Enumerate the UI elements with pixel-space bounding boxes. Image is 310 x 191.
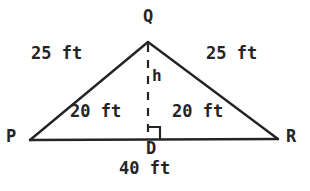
- side-label-pd: 20 ft: [70, 103, 121, 120]
- vertex-label-q: Q: [143, 8, 153, 25]
- side-label-qr: 25 ft: [206, 45, 257, 62]
- geometry-figure: Q P R D 25 ft 25 ft 20 ft 20 ft 40 ft h: [0, 0, 310, 191]
- side-label-dr: 20 ft: [172, 103, 223, 120]
- vertex-label-r: R: [286, 128, 296, 145]
- vertex-label-d: D: [146, 140, 156, 157]
- side-label-pq: 25 ft: [31, 45, 82, 62]
- altitude-label-h: h: [152, 68, 162, 84]
- side-label-pr: 40 ft: [119, 160, 170, 177]
- vertex-label-p: P: [6, 128, 16, 145]
